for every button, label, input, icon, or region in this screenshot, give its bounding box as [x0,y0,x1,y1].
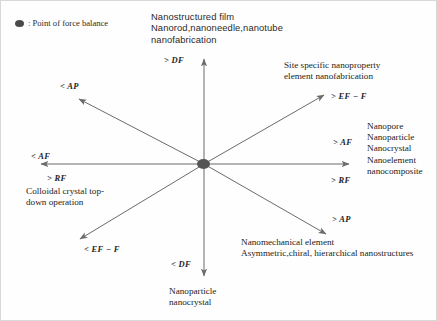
force-label-northwest: < AP [60,81,79,91]
block-north: Nanostructured film Nanorod,nanoneedle,n… [151,11,283,45]
block-north-line2: Nanorod,nanoneedle,nanotube [151,22,283,33]
block-southeast-line1: Nanomechanical element [241,237,413,248]
force-label-west-lower: > RF [47,173,67,183]
block-south-line1: Nanoparticle [169,286,216,297]
block-west: Colloidal crystal top- down operation [26,186,104,208]
block-east-line3: Nanocrystal [367,143,423,154]
block-east-line5: nanocomposite [367,166,423,177]
block-southeast: Nanomechanical element Asymmetric,chiral… [241,237,413,259]
force-label-southwest: < EF − F [84,244,120,254]
force-label-east-lower: > RF [331,175,351,185]
arrow-northwest [79,99,204,164]
block-east: Nanopore Nanoparticle Nanocrystal Nanoel… [367,121,423,177]
block-south-line2: nanocrystal [169,297,216,308]
block-west-line2: down operation [26,197,104,208]
force-label-east-upper: > AF [333,137,352,147]
block-north-line3: nanofabrication [151,34,283,45]
block-east-line1: Nanopore [367,121,423,132]
block-northeast-line1: Site specific nanoproperty [284,60,380,71]
block-east-line2: Nanoparticle [367,132,423,143]
block-south: Nanoparticle nanocrystal [169,286,216,308]
arrow-northeast [204,95,324,164]
block-north-line1: Nanostructured film [151,11,283,22]
force-label-northeast: > EF − F [331,91,367,101]
force-label-southeast: > AP [332,214,351,224]
force-label-south: < DF [171,259,191,269]
block-west-line1: Colloidal crystal top- [26,186,104,197]
force-label-west-upper: < AF [31,151,50,161]
block-northeast-line2: element nanofabrication [284,71,380,82]
figure-frame: : Point of force balance Nanostructured … [0,0,437,321]
block-southeast-line2: Asymmetric,chiral, hierarchical nanostru… [241,248,413,259]
arrow-southeast [204,164,326,234]
point-of-force-balance-hub [197,159,210,169]
legend-label: : Point of force balance [28,18,108,28]
force-label-north: > DF [164,55,184,65]
block-east-line4: Nanoelement [367,155,423,166]
force-balance-dot-icon [15,20,24,27]
block-northeast: Site specific nanoproperty element nanof… [284,60,380,82]
legend: : Point of force balance [15,18,108,28]
